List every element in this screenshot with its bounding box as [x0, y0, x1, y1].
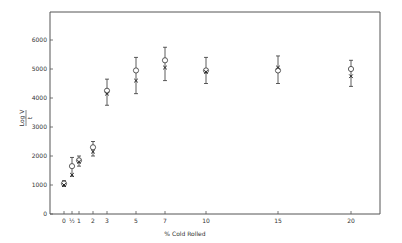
data-point	[90, 142, 95, 157]
data-point	[348, 60, 353, 86]
x-tick-label: 0	[62, 217, 66, 224]
data-point	[133, 57, 138, 93]
data-point	[162, 47, 167, 80]
y-tick-label: 2000	[32, 152, 47, 159]
y-tick-label: 6000	[32, 36, 47, 43]
y-tick-label: 1000	[32, 181, 47, 188]
y-tick-label: 3000	[32, 123, 47, 130]
x-tick-label: 2	[91, 217, 95, 224]
x-tick-label: 5	[134, 217, 138, 224]
x-tick-label: 15	[274, 217, 282, 224]
x-tick-label: 20	[347, 217, 355, 224]
chart: 0100020003000400050006000 0½12357101520 …	[0, 0, 402, 243]
plot-frame	[50, 12, 380, 214]
y-tick-label: 5000	[32, 65, 47, 72]
svg-text:Log V: Log V	[18, 109, 26, 127]
x-tick-label: 7	[163, 217, 167, 224]
x-tick-label: 10	[202, 217, 210, 224]
x-tick-label: ½	[69, 217, 75, 224]
svg-text:t: t	[26, 116, 33, 119]
data-series	[61, 47, 353, 187]
y-tick-label: 4000	[32, 94, 47, 101]
data-point	[275, 56, 280, 84]
x-tick-label: 3	[105, 217, 109, 224]
data-point	[76, 156, 81, 166]
y-tick-label: 0	[43, 210, 47, 217]
x-axis-label: % Cold Rolled	[164, 230, 205, 237]
x-axis: 0½12357101520	[62, 211, 355, 224]
x-tick-label: 1	[77, 217, 81, 224]
